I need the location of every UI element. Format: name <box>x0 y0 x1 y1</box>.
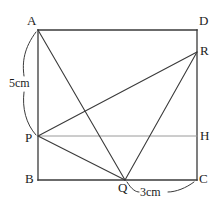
rectangle-abcd <box>38 30 197 180</box>
vertex-label-B: B <box>25 172 34 185</box>
vertex-label-C: C <box>199 172 208 185</box>
dimension-label-5cm: 5cm <box>9 77 30 89</box>
vertex-label-D: D <box>199 14 208 27</box>
vertex-label-A: A <box>27 14 36 27</box>
dimension-label-3cm: 3cm <box>140 186 161 198</box>
geometry-figure: A D R H P B Q C 5cm 3cm <box>0 0 219 210</box>
vertex-label-H: H <box>200 129 209 142</box>
vertex-label-R: R <box>200 44 209 57</box>
interior-segments <box>38 30 197 180</box>
vertex-label-P: P <box>25 131 32 144</box>
vertex-label-Q: Q <box>118 181 127 194</box>
